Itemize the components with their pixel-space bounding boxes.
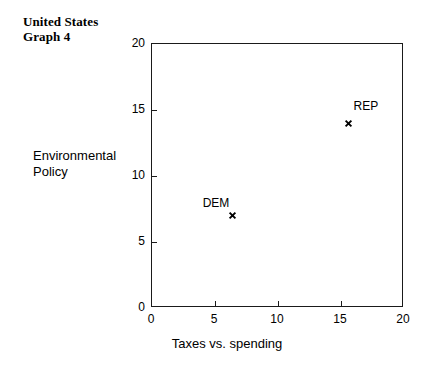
y-axis-tick	[152, 110, 157, 111]
y-axis-tick-label: 20	[107, 36, 145, 50]
x-axis-tick-label: 0	[131, 312, 171, 326]
x-axis-tick-label: 15	[320, 312, 360, 326]
y-axis-label-line-1: Environmental	[33, 148, 116, 164]
y-axis-label: Environmental Policy	[33, 148, 116, 180]
x-axis-tick-label: 10	[257, 312, 297, 326]
chart-title: United States Graph 4	[23, 14, 98, 44]
x-axis-tick-label: 5	[194, 312, 234, 326]
x-axis-tick	[278, 301, 279, 306]
plot-area: DEMREP	[151, 43, 403, 307]
y-axis-tick-label: 5	[107, 234, 145, 248]
x-axis-tick	[341, 301, 342, 306]
x-axis-label: Taxes vs. spending	[0, 336, 428, 352]
chart-title-line-2: Graph 4	[23, 29, 98, 44]
x-axis-label-text: Taxes vs. spending	[172, 336, 283, 351]
chart-title-line-1: United States	[23, 14, 98, 29]
data-point-label: DEM	[203, 196, 230, 210]
x-axis-tick-label: 20	[383, 312, 423, 326]
y-axis-tick-label: 0	[107, 300, 145, 314]
data-point-label: REP	[354, 99, 379, 113]
data-point-marker	[344, 119, 353, 128]
y-axis-tick	[152, 242, 157, 243]
y-axis-tick-label: 10	[107, 168, 145, 182]
y-axis-tick-label: 15	[107, 102, 145, 116]
x-axis-tick	[215, 301, 216, 306]
data-point-marker	[228, 211, 237, 220]
y-axis-label-line-2: Policy	[33, 164, 116, 180]
y-axis-tick	[152, 176, 157, 177]
